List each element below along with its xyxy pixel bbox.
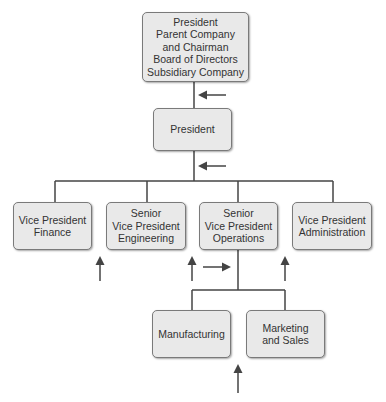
box-marketing-sales: Marketing and Sales — [246, 310, 325, 358]
box-chairman: President Parent Company and Chairman Bo… — [142, 12, 249, 82]
box-label: Manufacturing — [158, 328, 225, 341]
box-label: Marketing and Sales — [262, 322, 309, 347]
arrow-up-icon — [188, 256, 197, 281]
box-label: Senior Vice President Operations — [205, 207, 273, 245]
arrow-left-icon — [198, 91, 226, 100]
arrow-up-icon — [234, 364, 243, 393]
arrow-up-icon — [281, 256, 290, 281]
box-label: Senior Vice President Engineering — [112, 207, 180, 245]
box-vp-administration: Vice President Administration — [292, 202, 372, 250]
box-president: President — [153, 108, 232, 151]
box-manufacturing: Manufacturing — [152, 310, 231, 358]
box-label: Vice President Administration — [298, 214, 366, 239]
box-label: President Parent Company and Chairman Bo… — [147, 16, 244, 79]
box-label: President — [170, 123, 214, 136]
arrow-right-icon — [203, 263, 231, 272]
arrow-up-icon — [96, 256, 105, 281]
box-svp-engineering: Senior Vice President Engineering — [106, 202, 186, 250]
arrow-left-icon — [198, 162, 226, 171]
box-svp-operations: Senior Vice President Operations — [199, 202, 278, 250]
box-label: Vice President Finance — [19, 214, 87, 239]
box-vp-finance: Vice President Finance — [13, 202, 92, 250]
